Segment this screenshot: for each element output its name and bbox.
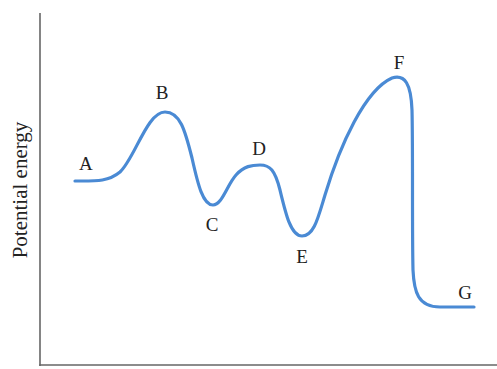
point-label-g: G	[458, 282, 472, 303]
point-label-e: E	[296, 246, 308, 267]
potential-energy-diagram: Potential energy A B C D E F G	[0, 0, 497, 369]
point-label-a: A	[79, 153, 93, 174]
point-label-d: D	[252, 138, 266, 159]
point-label-b: B	[156, 82, 169, 103]
energy-curve	[75, 77, 474, 307]
point-label-c: C	[206, 214, 219, 235]
y-axis-label: Potential energy	[8, 121, 32, 258]
point-label-f: F	[394, 52, 405, 73]
